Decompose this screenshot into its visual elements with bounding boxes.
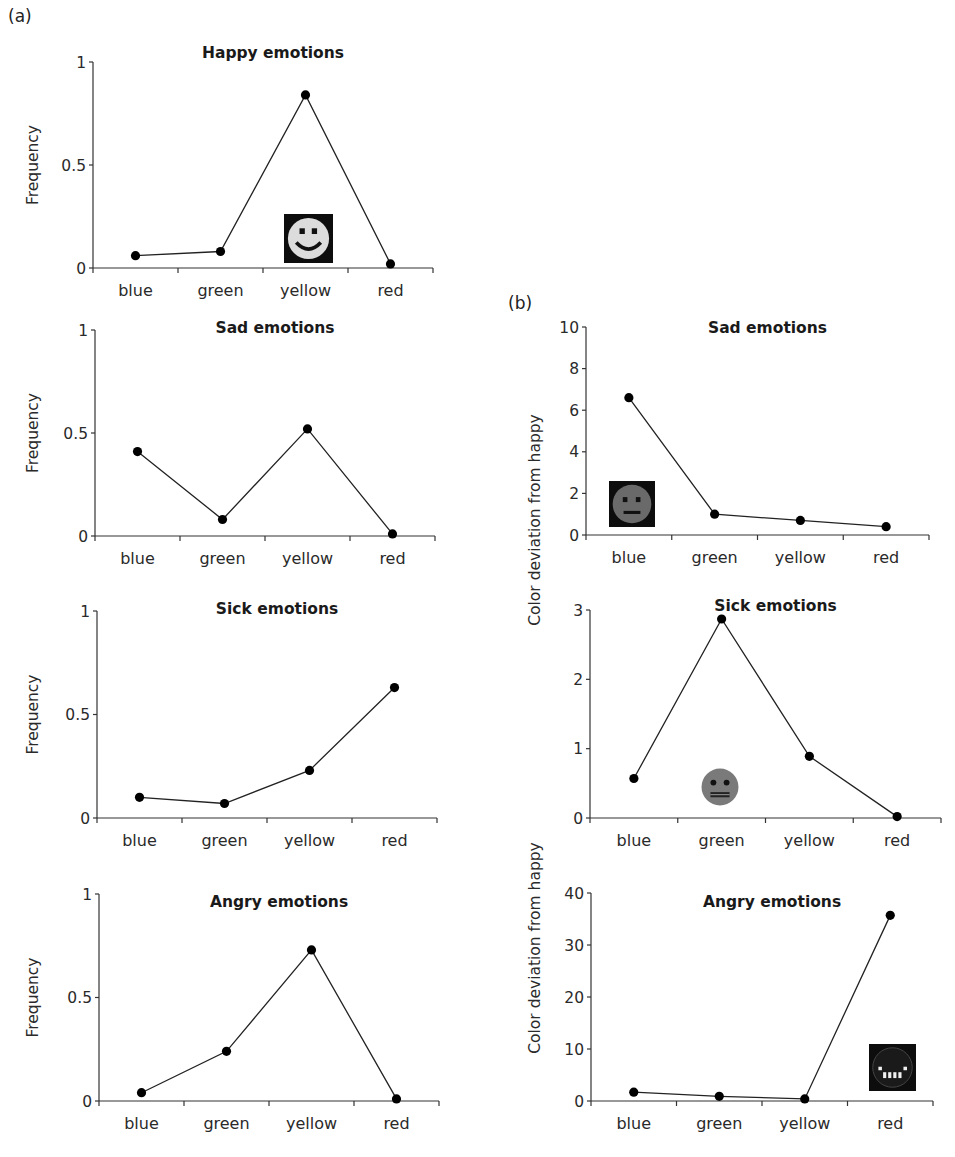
y-tick-label: 0 <box>569 527 579 545</box>
happy-face-icon <box>284 214 333 263</box>
chart-title: Sad emotions <box>215 319 334 337</box>
x-category-label: blue <box>122 831 157 850</box>
data-point <box>222 1047 231 1056</box>
data-line <box>142 950 397 1099</box>
data-point <box>218 515 227 524</box>
x-category-label: red <box>377 281 403 300</box>
data-point <box>886 911 895 920</box>
x-category-label: green <box>199 549 245 568</box>
y-tick-label: 0.5 <box>63 425 88 443</box>
y-tick-label: 1 <box>78 322 88 340</box>
x-category-label: blue <box>120 549 155 568</box>
x-category-label: blue <box>617 831 652 850</box>
data-point <box>805 752 814 761</box>
data-line <box>136 95 391 264</box>
x-category-label: green <box>203 1114 249 1133</box>
x-category-label: blue <box>612 548 647 567</box>
data-point <box>796 516 805 525</box>
data-point <box>715 1092 724 1101</box>
x-category-label: red <box>383 1114 409 1133</box>
chart-b-sick: 0123bluegreenyellowredSick emotions <box>573 597 941 850</box>
y-axis-label: Frequency <box>24 674 42 754</box>
y-tick-label: 0.5 <box>67 989 92 1007</box>
y-tick-label: 0 <box>76 260 86 278</box>
chart-a-happy: 00.51bluegreenyellowredHappy emotionsFre… <box>24 44 433 300</box>
x-category-label: red <box>877 1114 903 1133</box>
x-category-label: red <box>873 548 899 567</box>
x-category-label: red <box>884 831 910 850</box>
x-category-label: green <box>201 831 247 850</box>
data-point <box>882 522 891 531</box>
data-line <box>634 915 891 1099</box>
y-tick-label: 0 <box>574 1093 584 1111</box>
y-tick-label: 0 <box>573 810 583 828</box>
chart-title: Sad emotions <box>708 319 827 337</box>
data-point <box>135 793 144 802</box>
y-tick-label: 20 <box>564 989 584 1007</box>
x-category-label: green <box>699 831 745 850</box>
data-point <box>303 424 312 433</box>
y-tick-label: 2 <box>569 485 579 503</box>
data-point <box>893 812 902 821</box>
y-tick-label: 0 <box>82 1093 92 1111</box>
angry-face-icon <box>869 1044 916 1091</box>
data-point <box>305 766 314 775</box>
data-point <box>624 393 633 402</box>
data-point <box>216 247 225 256</box>
data-point <box>392 1094 401 1103</box>
y-axis-label: Color deviation from happy <box>526 842 544 1054</box>
data-line <box>140 688 395 804</box>
y-tick-label: 4 <box>569 443 579 461</box>
y-tick-label: 40 <box>564 885 584 903</box>
y-tick-label: 0 <box>80 810 90 828</box>
y-tick-label: 2 <box>573 671 583 689</box>
data-point <box>220 799 229 808</box>
data-point <box>137 1088 146 1097</box>
x-category-label: blue <box>616 1114 651 1133</box>
x-category-label: yellow <box>284 831 335 850</box>
data-point <box>386 259 395 268</box>
figure-canvas: 00.51bluegreenyellowredHappy emotionsFre… <box>0 0 955 1157</box>
chart-a-sad: 00.51bluegreenyellowredSad emotionsFrequ… <box>24 319 435 568</box>
x-category-label: green <box>692 548 738 567</box>
x-category-label: yellow <box>282 549 333 568</box>
data-line <box>138 429 393 534</box>
x-category-label: yellow <box>280 281 331 300</box>
data-point <box>301 90 310 99</box>
x-category-label: green <box>197 281 243 300</box>
y-tick-label: 0.5 <box>65 706 90 724</box>
chart-b-sad: 0246810bluegreenyellowredSad emotions <box>559 319 929 568</box>
x-category-label: green <box>696 1114 742 1133</box>
chart-a-sick: 00.51bluegreenyellowredSick emotionsFreq… <box>24 600 437 850</box>
y-tick-label: 10 <box>559 319 579 337</box>
chart-title: Sick emotions <box>216 600 338 618</box>
data-point <box>800 1094 809 1103</box>
y-tick-label: 8 <box>569 360 579 378</box>
sad-face-icon <box>609 481 655 527</box>
data-point <box>307 945 316 954</box>
x-category-label: yellow <box>775 548 826 567</box>
y-tick-label: 1 <box>573 740 583 758</box>
y-tick-label: 0.5 <box>61 157 86 175</box>
chart-title: Happy emotions <box>202 44 344 62</box>
data-point <box>710 510 719 519</box>
x-category-label: yellow <box>779 1114 830 1133</box>
chart-title: Angry emotions <box>210 893 348 911</box>
y-tick-label: 30 <box>564 937 584 955</box>
chart-title: Sick emotions <box>714 597 836 615</box>
data-point <box>717 614 726 623</box>
x-category-label: yellow <box>784 831 835 850</box>
y-axis-label: Frequency <box>24 393 42 473</box>
y-tick-label: 1 <box>82 886 92 904</box>
y-axis-label: Frequency <box>24 957 42 1037</box>
data-point <box>629 774 638 783</box>
y-tick-label: 10 <box>564 1041 584 1059</box>
x-category-label: red <box>379 549 405 568</box>
data-point <box>388 529 397 538</box>
y-tick-label: 6 <box>569 402 579 420</box>
data-line <box>629 398 886 527</box>
data-point <box>390 683 399 692</box>
data-line <box>634 619 897 817</box>
x-category-label: blue <box>124 1114 159 1133</box>
y-tick-label: 1 <box>80 603 90 621</box>
